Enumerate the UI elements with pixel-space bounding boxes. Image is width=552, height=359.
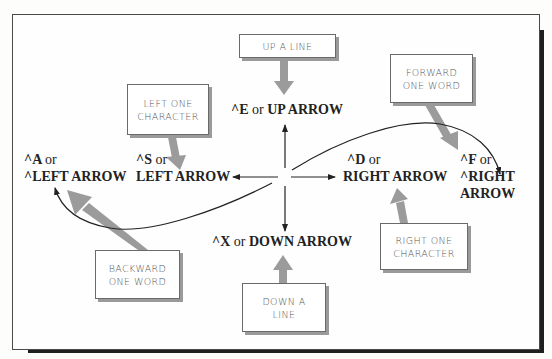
key-combo: ^A [24, 152, 41, 167]
callout-backward-one-word: BACKWARD ONE WORD [95, 250, 180, 299]
callout-text: LEFT ONE [143, 97, 192, 110]
key-name: LEFT ARROW [136, 168, 230, 185]
callout-text: CHARACTER [393, 247, 454, 260]
key-name: UP ARROW [267, 102, 343, 117]
callout-down-a-line: DOWN A LINE [242, 283, 326, 332]
key-or: or [234, 234, 246, 249]
callout-text: FORWARD [406, 66, 457, 79]
key-or: or [45, 152, 57, 167]
callout-right-one-character: RIGHT ONE CHARACTER [380, 223, 468, 270]
key-or: or [480, 152, 492, 167]
callout-text: ONE WORD [403, 79, 461, 92]
key-combo: ^D [347, 152, 365, 167]
key-name: ^RIGHT [460, 168, 515, 185]
key-name: ^LEFT ARROW [24, 168, 126, 185]
key-word-left: ^A or ^LEFT ARROW [24, 151, 126, 185]
key-right: ^D or RIGHT ARROW [343, 151, 447, 185]
callout-text: DOWN A [262, 295, 305, 308]
key-or: or [252, 102, 264, 117]
key-up: ^E or UP ARROW [231, 101, 343, 118]
pointer-arrow-right-one-character [390, 188, 408, 223]
pointer-arrow-down-a-line [273, 255, 293, 284]
key-down: ^X or DOWN ARROW [212, 233, 352, 250]
callout-forward-one-word: FORWARD ONE WORD [390, 54, 473, 103]
key-word-right: ^F or ^RIGHT ARROW [460, 151, 515, 202]
key-or: or [369, 152, 381, 167]
callout-text: CHARACTER [137, 110, 198, 123]
key-name: RIGHT ARROW [343, 168, 447, 185]
callout-text: LINE [273, 308, 296, 321]
key-combo: ^X [212, 234, 230, 249]
key-combo: ^E [231, 102, 248, 117]
callout-text: ONE WORD [109, 275, 167, 288]
callout-up-a-line: UP A LINE [239, 34, 336, 58]
key-combo: ^S [136, 152, 152, 167]
callout-text: UP A LINE [262, 40, 312, 53]
callout-left-one-character: LEFT ONE CHARACTER [127, 84, 209, 135]
key-or: or [155, 152, 167, 167]
pointer-arrow-up-a-line [274, 60, 294, 95]
key-left: ^S or LEFT ARROW [136, 151, 230, 185]
key-name: ARROW [460, 185, 515, 202]
callout-text: RIGHT ONE [396, 234, 453, 247]
callout-text: BACKWARD [109, 262, 167, 275]
key-name: DOWN ARROW [249, 234, 352, 249]
pointer-arrow-backward-one-word [67, 190, 148, 250]
key-combo: ^F [460, 152, 476, 167]
